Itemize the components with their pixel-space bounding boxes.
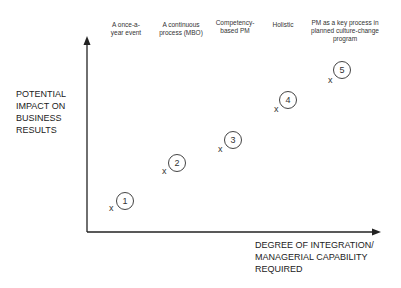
x-axis-label-line: REQUIRED — [255, 263, 374, 275]
stage-label-line: A once-a- — [98, 21, 154, 29]
stage-label-5: PM as a key process in planned culture-c… — [300, 19, 390, 43]
point-marker-5: x — [328, 75, 333, 85]
stage-label-line: based PM — [207, 27, 263, 35]
stage-label-3: Competency- based PM — [207, 19, 263, 35]
y-axis-label-line: RESULTS — [16, 124, 66, 136]
stage-label-line: PM as a key process in — [300, 19, 390, 27]
point-number-4: 4 — [279, 91, 297, 109]
y-axis-arrow-icon — [84, 36, 91, 45]
stage-label-line: Competency- — [207, 19, 263, 27]
point-number-5: 5 — [333, 61, 351, 79]
y-axis-label-line: IMPACT ON — [16, 100, 66, 112]
point-marker-2: x — [162, 166, 167, 176]
y-axis-label-line: BUSINESS — [16, 112, 66, 124]
y-axis-label: POTENTIAL IMPACT ON BUSINESS RESULTS — [16, 88, 66, 136]
point-number-1: 1 — [116, 192, 134, 210]
stage-label-line: planned culture-change — [300, 27, 390, 35]
point-number-2: 2 — [168, 154, 186, 172]
point-number-3: 3 — [224, 131, 242, 149]
point-marker-1: x — [109, 203, 114, 213]
x-axis-label-line: MANAGERIAL CAPABILITY — [255, 251, 374, 263]
stage-label-line: program — [300, 35, 390, 43]
x-axis-arrow-icon — [372, 229, 381, 236]
point-marker-3: x — [218, 144, 223, 154]
stage-label-1: A once-a- year event — [98, 21, 154, 37]
y-axis-label-line: POTENTIAL — [16, 88, 66, 100]
stage-label-line: year event — [98, 29, 154, 37]
stage-label-line: A continuous — [148, 21, 214, 29]
stage-label-line: process (MBO) — [148, 29, 214, 37]
x-axis-label-line: DEGREE OF INTEGRATION/ — [255, 239, 374, 251]
point-marker-4: x — [274, 104, 279, 114]
x-axis-label: DEGREE OF INTEGRATION/ MANAGERIAL CAPABI… — [255, 239, 374, 275]
stage-label-2: A continuous process (MBO) — [148, 21, 214, 37]
